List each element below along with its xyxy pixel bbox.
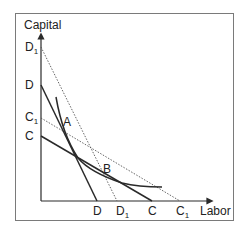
point-b-label: B <box>103 162 111 176</box>
isocost-isoquant-diagram: Capital Labor D1 D C1 C D D1 C C1 A B <box>0 0 248 233</box>
x-axis-label: Labor <box>200 204 231 218</box>
y-axis-label: Capital <box>24 18 61 32</box>
x-label-c: C <box>148 204 157 218</box>
x-label-d: D <box>93 204 102 218</box>
y-label-d1: D1 <box>25 40 39 56</box>
isocost-line-d1 <box>41 47 117 201</box>
x-label-d1: D1 <box>116 204 130 220</box>
y-label-c1: C1 <box>25 110 39 126</box>
y-label-d: D <box>25 78 34 92</box>
y-label-c: C <box>25 129 34 143</box>
point-a-label: A <box>63 115 71 129</box>
isocost-line-c1 <box>41 118 180 201</box>
x-label-c1: C1 <box>176 204 190 220</box>
isocost-line-c <box>41 136 152 201</box>
